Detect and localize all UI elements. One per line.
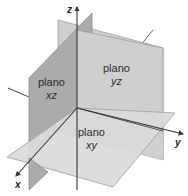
plane-yz-word: plano — [103, 62, 130, 74]
negative-y-axis — [8, 88, 29, 97]
plane-yz-name: yz — [110, 75, 123, 87]
planes-diagram: z y x plano xz plano yz plano xy — [0, 0, 188, 196]
plane-xy-name: xy — [85, 139, 99, 151]
coordinate-planes-figure: z y x plano xz plano yz plano xy — [0, 0, 188, 196]
y-axis-label: y — [174, 137, 181, 148]
plane-xz-word: plano — [38, 76, 65, 88]
z-axis-label: z — [66, 4, 72, 15]
plane-xz-name: xz — [45, 89, 58, 101]
x-axis-label: x — [14, 179, 21, 190]
plane-xy-word: plano — [78, 126, 105, 138]
